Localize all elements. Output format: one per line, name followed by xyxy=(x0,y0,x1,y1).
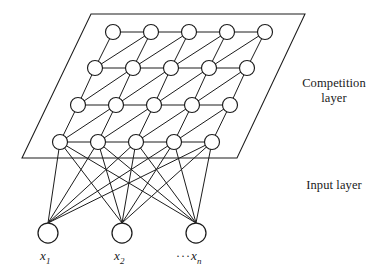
input-connection-line xyxy=(60,142,196,223)
competition-node xyxy=(167,135,182,150)
competition-node xyxy=(144,25,159,40)
lattice-cross-line xyxy=(60,105,116,142)
competition-node xyxy=(223,98,238,113)
competition-node xyxy=(147,98,162,113)
competition-node xyxy=(129,135,144,150)
input-layer-nodes xyxy=(38,223,206,243)
competition-node xyxy=(185,98,200,113)
competition-node xyxy=(71,98,86,113)
lattice-cross-line xyxy=(171,32,227,68)
som-diagram: Competition layer Input layer x1 x2 ···x… xyxy=(0,0,382,274)
input-connection-line xyxy=(174,142,196,223)
ellipsis-prefix-xn: ··· xyxy=(176,249,191,263)
competition-node xyxy=(53,135,68,150)
input-to-competition-connections xyxy=(48,142,212,223)
input-connection-line xyxy=(48,142,136,223)
lattice-cross-line xyxy=(209,32,265,68)
competition-node xyxy=(182,25,197,40)
input-node xyxy=(186,223,206,243)
input-connection-line xyxy=(98,142,122,223)
competition-node xyxy=(88,61,103,76)
competition-node xyxy=(258,25,273,40)
competition-layer-label: Competition layer xyxy=(288,76,380,106)
lattice-cross-line xyxy=(136,105,192,142)
input-node xyxy=(38,223,58,243)
lattice-cross-line xyxy=(133,32,189,68)
competition-node xyxy=(220,25,235,40)
competition-node xyxy=(164,61,179,76)
input-variable-label-x1: x1 xyxy=(40,248,50,266)
competition-node xyxy=(202,61,217,76)
variable-subscript-xn: n xyxy=(197,256,202,266)
lattice-cross-line xyxy=(98,105,154,142)
competition-node xyxy=(240,61,255,76)
lattice-cross-line xyxy=(95,32,151,68)
lattice-connections xyxy=(60,32,265,142)
input-layer-label: Input layer xyxy=(288,178,380,193)
input-variable-label-xn: ···xn xyxy=(176,248,201,266)
competition-node xyxy=(91,135,106,150)
input-connection-line xyxy=(48,142,60,223)
input-node xyxy=(112,223,132,243)
network-graphic xyxy=(0,0,382,274)
input-connection-line xyxy=(122,142,136,223)
competition-node xyxy=(109,98,124,113)
input-connection-line xyxy=(48,142,174,223)
input-variable-label-x2: x2 xyxy=(114,248,124,266)
variable-subscript-x2: 2 xyxy=(120,256,125,266)
variable-subscript-x1: 1 xyxy=(46,256,51,266)
competition-node xyxy=(205,135,220,150)
competition-node xyxy=(126,61,141,76)
competition-node xyxy=(106,25,121,40)
lattice-cross-line xyxy=(174,105,230,142)
